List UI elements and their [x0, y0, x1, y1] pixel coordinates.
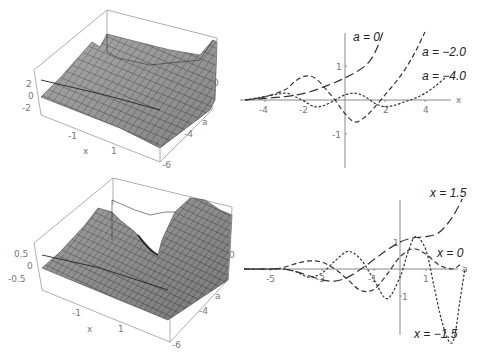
- figure: 2 0 -2 -1 x 1 0 -2 a -4 -6 0.5 0 -0.5 -1…: [0, 0, 480, 358]
- surface-plot-bottom-left: 0.5 0 -0.5 -1 x 1 0 -2 a -4 -6: [8, 178, 235, 350]
- a-tick: 0: [213, 78, 219, 88]
- x-tick: -4: [259, 105, 268, 115]
- x-tick: -2: [299, 105, 308, 115]
- y-tick: -1: [332, 130, 341, 140]
- annotation-x-0: x = 0: [436, 246, 464, 260]
- z-tick: -2: [22, 103, 31, 113]
- a-axis-label: a: [202, 117, 208, 127]
- a-axis-label: a: [215, 291, 221, 301]
- annotation-a-minus-2: a = −2.0: [422, 45, 466, 59]
- z-tick: 0: [27, 261, 33, 271]
- x-tick: 1: [111, 146, 117, 156]
- a-tick: -2: [199, 102, 208, 112]
- a-tick: 1: [423, 274, 429, 284]
- a-tick: -1: [368, 274, 377, 284]
- x-tick: 4: [423, 105, 429, 115]
- annotation-a-minus-4: a = −4.0: [422, 69, 466, 83]
- z-tick: -0.5: [8, 274, 26, 284]
- a-tick: -6: [172, 340, 181, 350]
- curve-x-0: [244, 249, 460, 292]
- a-tick: -4: [184, 129, 193, 139]
- a-tick: 0: [229, 250, 235, 260]
- curve-a-minus-2: [245, 32, 425, 122]
- x-axis-label: x: [83, 146, 89, 156]
- a-tick: -2: [214, 276, 223, 286]
- a-tick: -6: [162, 160, 171, 170]
- a-tick: -5: [266, 274, 275, 284]
- line-plot-bottom-right: -5 -3 -1 1 1 1 a x = 1.5 x = 0 x = −1.5: [244, 186, 468, 343]
- x-tick: -1: [68, 131, 77, 141]
- line-plot-top-right: -4 -2 2 4 1 -1 x a = 0 a = −2.0 a = −4.0: [240, 30, 466, 168]
- y-tick: 1: [393, 238, 399, 248]
- annotation-x-1.5: x = 1.5: [429, 186, 467, 200]
- annotation-x-minus-1.5: x = −1.5: [413, 327, 458, 341]
- y-tick: 1: [402, 292, 408, 302]
- surface-plot-top-left: 2 0 -2 -1 x 1 0 -2 a -4 -6: [22, 10, 219, 170]
- x-axis-label: x: [456, 95, 462, 105]
- annotation-a-0: a = 0: [353, 30, 380, 44]
- y-tick: 1: [336, 62, 342, 72]
- z-tick: 0: [28, 91, 34, 101]
- x-tick: -1: [72, 308, 81, 318]
- z-tick: 2: [26, 79, 32, 89]
- x-axis-label: x: [87, 324, 93, 334]
- z-tick: 0.5: [14, 249, 28, 259]
- x-tick: 1: [118, 324, 124, 334]
- a-tick: -4: [199, 306, 208, 316]
